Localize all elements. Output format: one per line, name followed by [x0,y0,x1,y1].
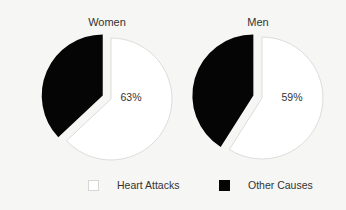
legend-label: Heart Attacks [117,179,179,191]
women-percent-label: 63% [120,91,141,103]
legend: Heart Attacks Other Causes [0,177,346,197]
legend-label: Other Causes [248,179,313,191]
women-pie: 63% [42,34,172,160]
legend-item-other-causes: Other Causes [219,179,313,191]
heart-attacks-swatch [88,180,99,191]
other-causes-swatch [219,180,230,191]
men-pie: 59% [192,34,323,159]
pie-charts: 63% 59% [0,0,346,175]
legend-item-heart-attacks: Heart Attacks [88,179,179,191]
men-percent-label: 59% [281,91,302,103]
